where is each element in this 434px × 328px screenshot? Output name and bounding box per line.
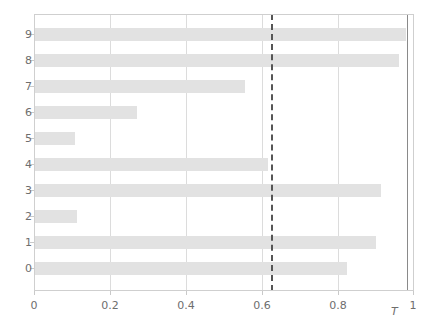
- ytick-label-5: 5: [8, 133, 32, 144]
- t-marker-line: [407, 14, 408, 291]
- ytick-label-9: 9: [8, 29, 32, 40]
- bar-4: [34, 158, 268, 171]
- ytick-label-2: 2: [8, 211, 32, 222]
- xtick-label-0.8: 0.8: [318, 300, 358, 311]
- bar-7: [34, 80, 245, 93]
- xtick-mark-0: [34, 291, 35, 295]
- bar-9: [34, 28, 406, 41]
- bar-3: [34, 184, 381, 197]
- xtick-label-0.6: 0.6: [242, 300, 282, 311]
- bar-5: [34, 132, 75, 145]
- xtick-label-0.2: 0.2: [90, 300, 130, 311]
- xtick-mark-0.2: [110, 291, 111, 295]
- chart-figure: 9 8 7 6 5 4 3 2 1 0 0 0.2 0.4 0.6 0.8 1 …: [0, 0, 434, 328]
- axis-spine-right: [413, 14, 414, 291]
- x-axis-label: T: [391, 306, 398, 317]
- bar-8: [34, 54, 399, 67]
- xtick-label-1: 1: [393, 300, 433, 311]
- axis-spine-top: [34, 14, 414, 15]
- xtick-mark-0.6: [262, 291, 263, 295]
- axis-spine-bottom: [34, 290, 414, 291]
- ytick-label-0: 0: [8, 263, 32, 274]
- xtick-mark-1: [413, 291, 414, 295]
- ytick-label-8: 8: [8, 55, 32, 66]
- xtick-label-0: 0: [14, 300, 54, 311]
- plot-area: [34, 14, 414, 291]
- xtick-mark-0.4: [186, 291, 187, 295]
- ytick-label-1: 1: [8, 237, 32, 248]
- ytick-label-6: 6: [8, 107, 32, 118]
- axis-spine-left: [34, 14, 35, 291]
- bar-1: [34, 236, 376, 249]
- bar-6: [34, 106, 137, 119]
- bar-0: [34, 262, 347, 275]
- threshold-dashed-line: [271, 14, 273, 291]
- xtick-mark-0.8: [338, 291, 339, 295]
- bar-2: [34, 210, 77, 223]
- ytick-label-3: 3: [8, 185, 32, 196]
- ytick-label-4: 4: [8, 159, 32, 170]
- xtick-label-0.4: 0.4: [166, 300, 206, 311]
- ytick-label-7: 7: [8, 81, 32, 92]
